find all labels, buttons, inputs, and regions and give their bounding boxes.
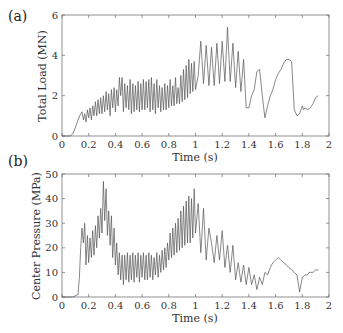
chart-panel-a: (a) 00.20.40.60.811.21.41.61.82 0246 Tim… <box>8 8 332 164</box>
y-tick-label: 4 <box>52 50 58 61</box>
x-tick-label: 0 <box>59 300 65 311</box>
x-tick-label: 0.4 <box>107 300 123 311</box>
x-tick-label: 0 <box>59 139 65 150</box>
x-tick-label: 0.8 <box>161 300 177 311</box>
x-tick-label: 1.8 <box>294 139 310 150</box>
x-tick-label: 0.2 <box>81 139 97 150</box>
x-tick-label: 1.6 <box>268 300 284 311</box>
panel-label-b: (b) <box>8 153 28 169</box>
x-tick-label: 2 <box>326 300 332 311</box>
x-axis-title-a: Time (s) <box>172 151 218 164</box>
y-tick-label: 50 <box>45 169 58 180</box>
x-tick-label: 0.4 <box>107 139 123 150</box>
y-tick-label: 0 <box>52 292 58 303</box>
plot-frame-b <box>62 174 329 297</box>
y-tick-label: 20 <box>45 242 58 253</box>
x-axis-title-b: Time (s) <box>172 312 218 325</box>
x-tick-label: 1.2 <box>214 300 230 311</box>
x-tick-label: 1.4 <box>241 300 257 311</box>
y-tick-label: 0 <box>52 131 58 142</box>
x-tick-label: 1.8 <box>294 300 310 311</box>
x-tick-label: 1 <box>192 139 198 150</box>
x-tick-label: 0.6 <box>134 139 150 150</box>
x-tick-label: 1 <box>192 300 198 311</box>
chart-panel-b: (b) 00.20.40.60.811.21.41.61.82 01020304… <box>8 153 332 325</box>
x-tick-label: 1.4 <box>241 139 257 150</box>
y-axis-title-b: Center Pressure (MPa) <box>30 172 43 300</box>
x-tick-label: 1.2 <box>214 139 230 150</box>
center-pressure-series <box>62 181 318 297</box>
y-tick-label: 2 <box>52 90 58 101</box>
total-load-series <box>62 27 318 136</box>
x-tick-label: 0.2 <box>81 300 97 311</box>
panel-label-a: (a) <box>8 8 27 24</box>
y-tick-label: 10 <box>45 267 58 278</box>
y-ticks-a: 0246 <box>52 10 329 142</box>
x-ticks-b: 00.20.40.60.811.21.41.61.82 <box>59 174 332 311</box>
plot-frame-a <box>62 15 329 136</box>
x-tick-label: 0.6 <box>134 300 150 311</box>
y-tick-label: 6 <box>52 10 58 21</box>
x-tick-label: 0.8 <box>161 139 177 150</box>
y-tick-label: 40 <box>45 193 58 204</box>
figure: (a) 00.20.40.60.811.21.41.61.82 0246 Tim… <box>0 0 343 333</box>
x-tick-label: 2 <box>326 139 332 150</box>
y-axis-title-a: Total Load (MN) <box>36 30 49 122</box>
y-tick-label: 30 <box>45 218 58 229</box>
x-tick-label: 1.6 <box>268 139 284 150</box>
